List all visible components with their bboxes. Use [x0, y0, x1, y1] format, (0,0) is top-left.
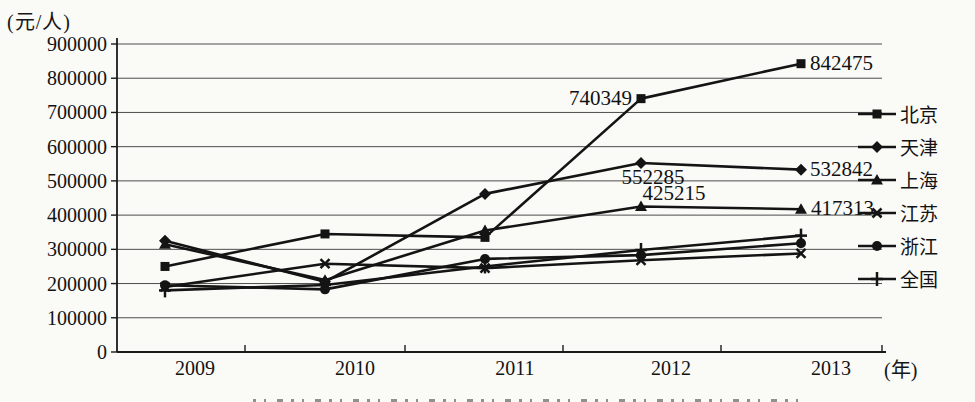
scanned-line-chart-figure: 0100000200000300000400000500000600000700…	[0, 0, 975, 402]
square-marker-icon	[856, 106, 898, 122]
marker-beijing-2009	[161, 262, 170, 271]
plus-glyph	[871, 272, 883, 286]
marker-beijing-2013	[797, 59, 806, 68]
legend-item-tianjin: 天津	[856, 130, 975, 163]
legend-item-zhejiang: 浙江	[856, 229, 975, 262]
y-axis-unit-label: (元/人)	[7, 6, 71, 35]
y-tick-label: 200000	[47, 273, 107, 295]
legend-item-beijing: 北京	[856, 97, 975, 130]
y-tick-label: 900000	[47, 33, 107, 55]
triangle-marker-icon	[856, 172, 898, 188]
square-glyph	[873, 109, 882, 118]
x-tick-label: 2012	[651, 357, 691, 379]
legend-item-shanghai: 上海	[856, 163, 975, 196]
y-tick-label: 800000	[47, 67, 107, 89]
legend-label: 天津	[900, 133, 938, 160]
marker-tianjin-2011	[479, 188, 491, 200]
y-tick-label: 100000	[47, 307, 107, 329]
legend-item-quanguo: 全国	[856, 262, 975, 295]
legend-label: 北京	[900, 100, 938, 127]
circle-marker-icon	[856, 238, 898, 254]
y-tick-label: 700000	[47, 101, 107, 123]
y-tick-label: 300000	[47, 238, 107, 260]
cropped-caption-fragment	[253, 396, 801, 402]
data-label-425215: 425215	[643, 181, 706, 205]
data-label-842475: 842475	[810, 51, 873, 75]
circle-glyph	[872, 241, 882, 251]
y-tick-label: 400000	[47, 204, 107, 226]
x-tick-label: 2013	[811, 357, 851, 379]
line-chart-plot: 0100000200000300000400000500000600000700…	[0, 0, 975, 402]
marker-tianjin-2013	[795, 164, 807, 176]
x-marker-icon	[856, 205, 898, 221]
y-tick-label: 500000	[47, 170, 107, 192]
marker-beijing-2010	[321, 229, 330, 238]
y-tick-label: 600000	[47, 136, 107, 158]
legend-label: 全国	[900, 265, 938, 292]
legend-label: 上海	[900, 166, 938, 193]
y-tick-label: 0	[97, 341, 107, 363]
diamond-marker-icon	[856, 139, 898, 155]
x-tick-label: 2010	[335, 357, 375, 379]
x-tick-label: 2009	[175, 357, 215, 379]
diamond-glyph	[871, 141, 883, 153]
data-label-740349: 740349	[569, 86, 632, 110]
x-tick-label: 2011	[495, 357, 534, 379]
legend-label: 浙江	[900, 232, 938, 259]
chart-legend: 北京 天津 上海 江苏 浙江 全国	[856, 97, 975, 295]
plus-marker-icon	[856, 271, 898, 287]
legend-item-jiangsu: 江苏	[856, 196, 975, 229]
legend-label: 江苏	[900, 199, 938, 226]
x-axis-unit-label: (年)	[884, 354, 917, 383]
marker-beijing-2012	[637, 94, 646, 103]
